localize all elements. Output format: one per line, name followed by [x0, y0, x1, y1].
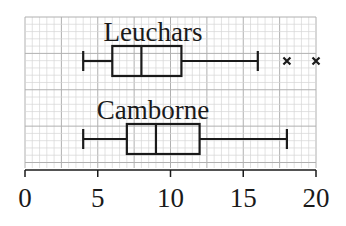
series-label: Leuchars: [104, 17, 203, 47]
box-plot-chart: 05101520 LeucharsCamborne: [0, 0, 346, 226]
x-tick-label: 10: [157, 183, 184, 213]
x-axis: 05101520: [18, 170, 329, 213]
x-tick-label: 15: [230, 183, 257, 213]
x-tick-label: 0: [18, 183, 32, 213]
series-label: Camborne: [97, 95, 209, 125]
x-tick-label: 20: [303, 183, 330, 213]
x-tick-label: 5: [91, 183, 105, 213]
box-plot-leuchars: Leuchars: [83, 17, 319, 76]
